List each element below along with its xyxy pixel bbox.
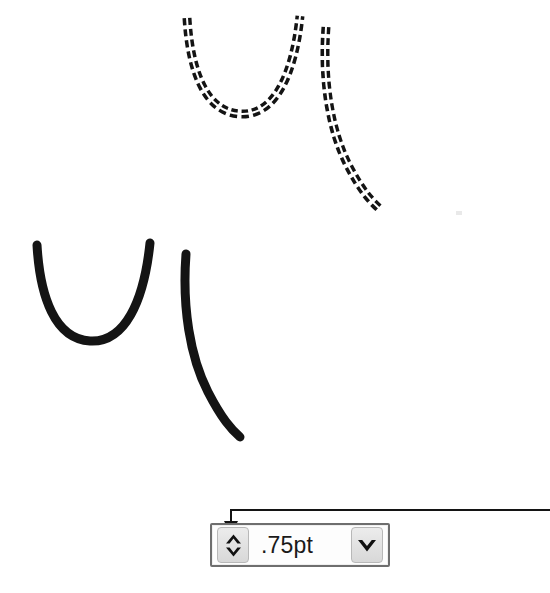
- line-weight-dropdown-button[interactable]: [351, 527, 383, 563]
- solid-curve-group: [37, 243, 240, 437]
- line-weight-value[interactable]: .75pt: [249, 532, 351, 559]
- curve-artwork: [0, 0, 550, 593]
- dashed-u-curve-inner-gap: [187, 16, 300, 114]
- dashed-curve-group: [187, 16, 381, 210]
- line-weight-combo-box[interactable]: .75pt: [210, 523, 390, 567]
- chevron-up-icon[interactable]: [225, 534, 242, 544]
- solid-tail-curve: [185, 254, 240, 437]
- figure-page: .75pt: [0, 0, 550, 593]
- scan-speck: [456, 211, 462, 215]
- dashed-u-curve-outer: [187, 16, 300, 114]
- dashed-tail-curve-outer: [325, 27, 381, 210]
- dashed-tail-curve: [325, 27, 381, 210]
- dashed-u-curve: [187, 16, 300, 114]
- line-weight-spinner[interactable]: [217, 527, 249, 563]
- solid-u-curve: [37, 243, 150, 341]
- chevron-down-icon[interactable]: [225, 547, 242, 557]
- chevron-down-icon[interactable]: [357, 539, 377, 552]
